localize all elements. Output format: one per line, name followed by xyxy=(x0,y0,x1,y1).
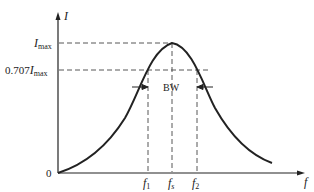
bandwidth-label: BW xyxy=(163,82,180,93)
origin-label: 0 xyxy=(46,167,52,179)
resonance-curve xyxy=(58,43,272,173)
y-axis-label: I xyxy=(63,9,69,23)
axes xyxy=(58,18,300,173)
bw-right-arrow-icon xyxy=(197,85,203,90)
bw-left-arrow-icon xyxy=(142,85,148,90)
half-power-label: 0.707Imax xyxy=(5,63,48,78)
imax-label: Imax xyxy=(33,36,52,51)
resonance-curve-diagram: I f 0 Imax 0.707Imax BW f1 fs f2 xyxy=(0,0,314,192)
x-axis-label: f xyxy=(304,175,309,189)
guide-lines xyxy=(59,43,210,172)
y-axis-arrow-icon xyxy=(56,12,61,20)
f2-label: f2 xyxy=(192,176,199,191)
fs-label: fs xyxy=(168,176,174,191)
f1-label: f1 xyxy=(143,176,150,191)
